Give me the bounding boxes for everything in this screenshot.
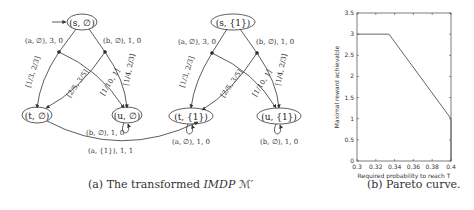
interval-label-4-r: [1/4, 2/3] bbox=[274, 53, 289, 87]
x-tick-label: 0.32 bbox=[369, 163, 383, 170]
y-tick-label: 0 bbox=[350, 157, 354, 164]
interval-label-1: [1/3, 2/3] bbox=[24, 55, 42, 89]
interval-label-2-r: [2/5, 3/5] bbox=[219, 68, 244, 99]
x-tick-label: 0.34 bbox=[388, 163, 402, 170]
caption-a-italic: IMDP bbox=[203, 178, 235, 191]
interval-label-1-r: [1/3, 2/3] bbox=[178, 55, 196, 89]
y-tick-label: 0.5 bbox=[344, 136, 354, 143]
y-tick-label: 2 bbox=[350, 72, 354, 79]
y-tick-label: 1.5 bbox=[344, 94, 354, 101]
pareto-curve-line bbox=[357, 34, 451, 161]
node-s-1-label: (s, {1}) bbox=[216, 18, 251, 28]
edge-label-t1-self: (a, ∅), 1, 0 bbox=[172, 138, 210, 146]
edge-s1-b bbox=[240, 29, 257, 53]
interval-label-2: [2/5, 3/5] bbox=[65, 68, 90, 99]
left-graph: (s, ∅) (a, ∅), 3, 0 (b, ∅), 1, 0 [1/3, 2… bbox=[22, 14, 198, 155]
x-tick-label: 0.4 bbox=[446, 163, 456, 170]
caption-a-prefix: (a) The transformed bbox=[88, 178, 203, 191]
node-s-empty-label: (s, ∅) bbox=[69, 18, 94, 28]
edge-label-t-to-t1: (a, {1}), 1, 1 bbox=[88, 147, 133, 155]
y-tick-label: 2.5 bbox=[344, 51, 354, 58]
pareto-chart: 0.30.320.340.360.380.400.511.522.533.5 M… bbox=[330, 0, 474, 180]
axis-ticks: 0.30.320.340.360.380.400.511.522.533.5 bbox=[344, 9, 455, 170]
edge-label-u1-self: (b, ∅), 1, 0 bbox=[260, 138, 298, 146]
self-loop-u-1 bbox=[274, 124, 280, 134]
caption-a: (a) The transformed IMDP ℳ′ bbox=[88, 178, 253, 191]
plot-frame bbox=[357, 13, 451, 161]
interval-label-3: [1/10, 1] bbox=[99, 67, 122, 97]
x-tick-label: 0.36 bbox=[407, 163, 421, 170]
interval-label-3-r: [1/10, 1] bbox=[251, 68, 274, 98]
edge-label-a-1: (a, ∅), 3, 0 bbox=[178, 38, 216, 46]
edge-label-a: (a, ∅), 3, 0 bbox=[25, 37, 63, 45]
y-tick-label: 3 bbox=[350, 30, 354, 37]
imdp-diagram: (s, ∅) (a, ∅), 3, 0 (b, ∅), 1, 0 [1/3, 2… bbox=[0, 0, 330, 170]
node-t-1-label: (t, {1}) bbox=[174, 112, 208, 122]
interval-label-4: [1/4, 2/3] bbox=[122, 53, 137, 87]
y-tick-label: 1 bbox=[350, 115, 354, 122]
y-tick-label: 3.5 bbox=[344, 9, 354, 16]
y-axis-title: Maximal reward achievable bbox=[333, 46, 340, 129]
edge-label-b-1: (b, ∅), 1, 0 bbox=[256, 38, 294, 46]
x-tick-label: 0.3 bbox=[352, 163, 362, 170]
edge-label-b: (b, ∅), 1, 0 bbox=[103, 37, 141, 45]
edge-label-u-self: (b, ∅), 1, 0 bbox=[86, 129, 124, 137]
node-u-empty-label: (u, ∅) bbox=[114, 111, 141, 121]
caption-b: (b) Pareto curve. bbox=[367, 178, 461, 191]
caption-a-suffix: ℳ′ bbox=[235, 178, 253, 191]
node-u-1-label: (u, {1}) bbox=[261, 112, 297, 122]
node-t-empty-label: (t, ∅) bbox=[25, 111, 49, 121]
x-tick-label: 0.38 bbox=[426, 163, 440, 170]
